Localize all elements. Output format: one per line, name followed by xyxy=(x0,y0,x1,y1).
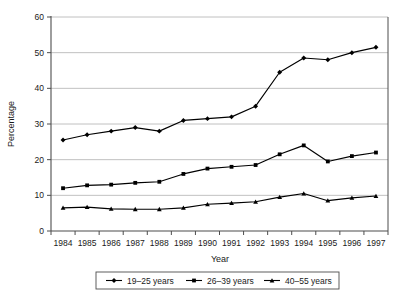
x-tick-label: 1991 xyxy=(222,238,241,248)
legend-label: 40–55 years xyxy=(285,276,332,286)
legend-label: 26–39 years xyxy=(207,276,254,286)
data-point xyxy=(254,163,258,167)
x-tick-label: 1989 xyxy=(174,238,193,248)
x-tick-label: 1985 xyxy=(78,238,97,248)
data-point xyxy=(326,160,330,164)
y-tick-label: 10 xyxy=(35,190,45,200)
x-tick-label: 1996 xyxy=(342,238,361,248)
x-tick-label: 1988 xyxy=(150,238,169,248)
legend-marker xyxy=(192,279,196,283)
x-tick-label: 1995 xyxy=(318,238,337,248)
x-tick-label: 1987 xyxy=(126,238,145,248)
x-tick-label: 1994 xyxy=(294,238,313,248)
chart-background xyxy=(0,0,417,300)
x-tick-label: 1986 xyxy=(102,238,121,248)
data-point xyxy=(61,186,65,190)
data-point xyxy=(157,180,161,184)
y-tick-label: 50 xyxy=(35,48,45,58)
x-tick-label: 1984 xyxy=(54,238,73,248)
data-point xyxy=(350,154,354,158)
data-point xyxy=(230,165,234,169)
y-tick-label: 0 xyxy=(39,226,44,236)
data-point xyxy=(374,151,378,155)
x-tick-label: 1993 xyxy=(270,238,289,248)
legend-label: 19–25 years xyxy=(127,276,174,286)
y-tick-label: 30 xyxy=(35,119,45,129)
data-point xyxy=(181,172,185,176)
x-tick-label: 1992 xyxy=(246,238,265,248)
x-tick-label: 1997 xyxy=(367,238,386,248)
data-point xyxy=(109,183,113,187)
chart-legend: 19–25 years26–39 years40–55 years xyxy=(96,272,339,289)
data-point xyxy=(85,183,89,187)
line-chart: 0102030405060 19841985198619871988198919… xyxy=(0,0,417,300)
data-point xyxy=(278,152,282,156)
y-tick-label: 60 xyxy=(35,12,45,22)
x-tick-label: 1990 xyxy=(198,238,217,248)
y-axis-label: Percentage xyxy=(6,101,16,147)
x-axis-label: Year xyxy=(211,254,229,264)
y-tick-label: 20 xyxy=(35,155,45,165)
data-point xyxy=(133,181,137,185)
data-point xyxy=(206,167,210,171)
data-point xyxy=(302,144,306,148)
y-tick-label: 40 xyxy=(35,83,45,93)
